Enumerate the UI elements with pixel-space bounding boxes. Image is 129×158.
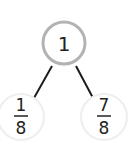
part-left-numerator: 1 [16,95,27,115]
part-left-denominator: 8 [16,118,27,138]
part-right-numerator: 7 [99,95,110,115]
connector-line-right [76,66,93,98]
part-right-denominator: 8 [99,118,110,138]
number-bond-diagram: 1 1 8 7 8 [0,0,129,158]
whole-label: 1 [58,32,71,56]
connector-line-left [34,66,52,98]
